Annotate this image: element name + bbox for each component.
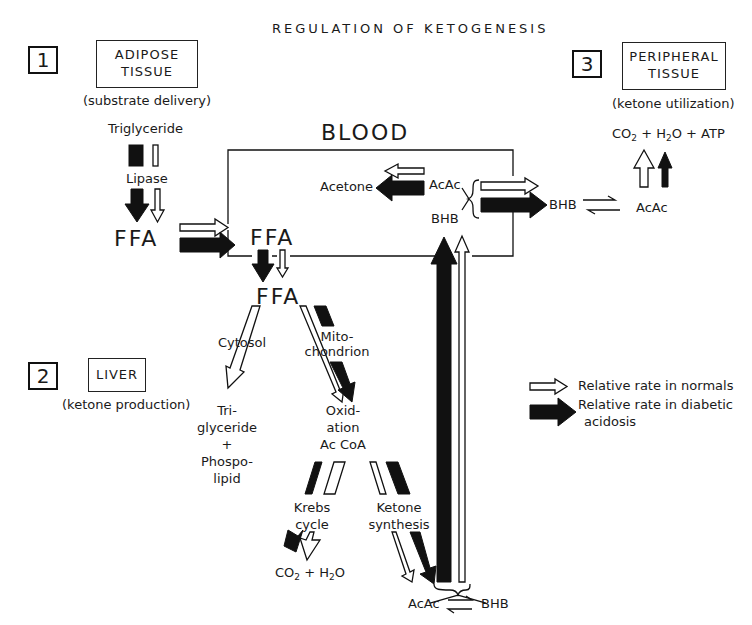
liver-acac-label: AcAc — [408, 597, 440, 612]
label-line: Relative rate in diabetic — [578, 397, 733, 414]
label-line: + — [196, 437, 258, 454]
blood-ffa-label: FFA — [250, 225, 294, 250]
blood-label: BLOOD — [321, 120, 409, 145]
blood-acac-label: AcAc — [429, 178, 461, 193]
co-text: CO — [612, 126, 631, 141]
label-line: ation — [312, 420, 374, 437]
liver-ffa-label: FFA — [256, 284, 300, 309]
acetone-label: Acetone — [320, 180, 373, 195]
label-line: Phospo- — [196, 454, 258, 471]
label-line: Krebs — [286, 500, 338, 517]
mitochondrion-label: Mito- chondrion — [296, 330, 378, 360]
co-text: CO — [275, 565, 294, 580]
label-line: lipid — [196, 471, 258, 488]
lipase-label: Lipase — [126, 172, 168, 187]
adipose-ffa-label: FFA — [114, 226, 158, 251]
label-line: synthesis — [362, 517, 436, 534]
peripheral-acac-label: AcAc — [636, 201, 668, 216]
label-line: cycle — [286, 517, 338, 534]
label-line: Tri- — [196, 403, 258, 420]
blood-bhb-label: BHB — [431, 212, 459, 227]
legend-normals-label: Relative rate in normals — [578, 379, 733, 394]
h-text: + H — [300, 565, 329, 580]
ketone-synthesis-label: Ketone synthesis — [362, 500, 436, 534]
krebs-cycle-label: Krebs cycle — [286, 500, 338, 534]
label-line: chondrion — [296, 345, 378, 360]
label-line: Ketone — [362, 500, 436, 517]
liver-bhb-label: BHB — [481, 597, 509, 612]
label-line: Mito- — [296, 330, 378, 345]
triglyceride-label: Triglyceride — [108, 122, 183, 137]
oxidation-label: Oxid- ation Ac CoA — [312, 403, 374, 454]
h-text: + H — [637, 126, 666, 141]
triglyceride-phospholipid-label: Tri- glyceride + Phospo- lipid — [196, 403, 258, 487]
o-text: O — [335, 565, 345, 580]
peripheral-bhb-label: BHB — [549, 198, 577, 213]
liver-co2-h2o: CO2 + H2O — [275, 566, 345, 582]
label-line: glyceride — [196, 420, 258, 437]
legend-diabetic-label: Relative rate in diabetic acidosis — [578, 397, 733, 431]
peripheral-products: CO2 + H2O + ATP — [612, 127, 725, 143]
label-line: acidosis — [578, 414, 733, 431]
label-line: Oxid- — [312, 403, 374, 420]
cytosol-label: Cytosol — [218, 336, 266, 351]
o-atp-text: O + ATP — [672, 126, 725, 141]
label-line: Ac CoA — [312, 437, 374, 454]
